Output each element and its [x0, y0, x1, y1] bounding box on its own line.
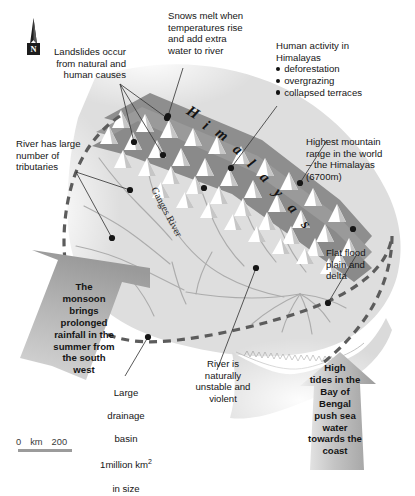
list-item-label: overgrazing — [284, 75, 334, 87]
bullet-dot-icon — [276, 79, 280, 83]
large-basin-line-2: drainage — [82, 410, 170, 422]
scale-bar: 0 km 200 — [8, 437, 116, 452]
scale-unit-label: km — [30, 437, 42, 447]
bullet-dot-icon — [276, 90, 280, 94]
large-basin-area-exponent: 2 — [148, 458, 152, 465]
large-basin-area-value: 1million km — [100, 459, 148, 470]
annotation-large-basin: Large drainage basin 1million km2 in siz… — [82, 375, 170, 496]
annotation-highest-range: Highest mountain range in the world – th… — [306, 136, 412, 182]
large-basin-line-1: Large — [82, 387, 170, 399]
list-item: deforestation — [276, 63, 362, 75]
annotation-tributaries: River has large number of tributaries — [16, 138, 110, 173]
annotation-landslides: Landslides occur from natural and human … — [34, 46, 126, 81]
annotation-human-activity-title: Human activity in Himalayas — [276, 40, 402, 63]
tidal-arrow-label: High tides in the Bay of Bengal push sea… — [297, 362, 373, 457]
list-item-label: deforestation — [284, 63, 339, 75]
scale-max-label: 200 — [52, 437, 68, 447]
annotation-snows-melt: Snows melt when temperatures rise and ad… — [168, 10, 272, 56]
list-item-label: collapsed terraces — [284, 87, 362, 99]
human-activity-list: deforestation overgrazing collapsed terr… — [276, 63, 362, 98]
annotation-flat-flood-plain: Flat flood plain and delta — [326, 247, 396, 282]
annotation-river-unstable: River is naturally unstable and violent — [180, 358, 266, 404]
large-basin-line-4: 1million km2 — [82, 456, 170, 471]
bullet-dot-icon — [276, 67, 280, 71]
scale-min-label: 0 — [16, 437, 21, 447]
scale-bar-labels: 0 km 200 — [8, 437, 116, 447]
scale-bar-graphic — [18, 449, 72, 452]
large-basin-line-5: in size — [82, 483, 170, 495]
list-item: collapsed terraces — [276, 87, 362, 99]
list-item: overgrazing — [276, 75, 362, 87]
monsoon-arrow-label: The monsoon brings prolonged rainfall in… — [30, 281, 138, 376]
